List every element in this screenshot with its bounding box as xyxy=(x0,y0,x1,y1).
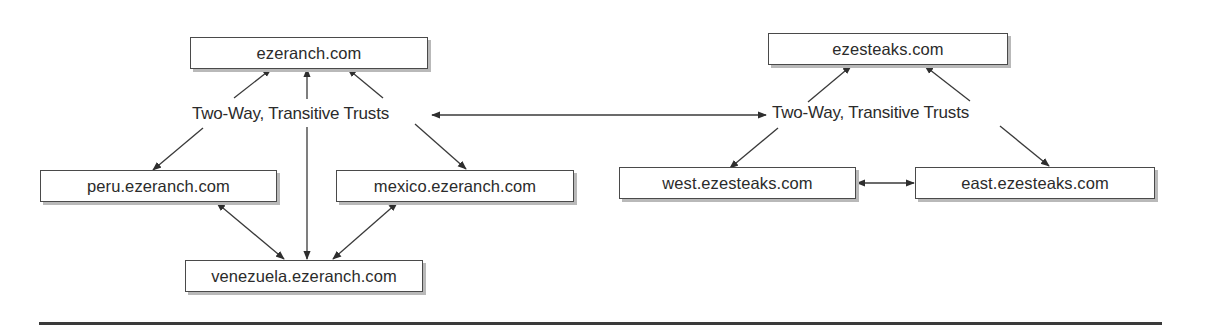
trust-label-left: Two-Way, Transitive Trusts xyxy=(192,104,389,124)
domain-node-venezuela: venezuela.ezeranch.com xyxy=(185,260,423,292)
domain-node-mexico: mexico.ezeranch.com xyxy=(336,170,574,202)
domain-node-ezeranch: ezeranch.com xyxy=(190,37,428,69)
arrow-label-to-ezesteaks-right xyxy=(925,66,970,101)
trust-diagram: ezeranch.com Two-Way, Transitive Trusts … xyxy=(0,0,1208,333)
domain-label: west.ezesteaks.com xyxy=(662,174,812,193)
domain-node-west: west.ezesteaks.com xyxy=(619,167,856,199)
domain-label: peru.ezeranch.com xyxy=(87,177,230,196)
domain-node-east: east.ezesteaks.com xyxy=(915,167,1155,199)
arrow-label-to-mexico xyxy=(415,124,466,169)
arrow-mexico-venezuela xyxy=(333,203,397,259)
domain-label: ezeranch.com xyxy=(257,44,362,63)
domain-label: ezesteaks.com xyxy=(832,40,943,59)
domain-label: venezuela.ezeranch.com xyxy=(211,267,397,286)
arrow-peru-venezuela xyxy=(217,203,284,259)
arrow-label-to-peru xyxy=(153,128,203,170)
arrow-label-to-ezeranch-left xyxy=(234,69,271,98)
domain-node-ezesteaks: ezesteaks.com xyxy=(768,33,1008,65)
arrow-label-to-ezeranch-right xyxy=(348,69,383,98)
arrow-label-to-ezesteaks-left xyxy=(808,66,851,102)
domain-label: east.ezesteaks.com xyxy=(961,174,1109,193)
arrow-label-to-east xyxy=(1000,126,1049,166)
trust-label-right: Two-Way, Transitive Trusts xyxy=(772,103,969,123)
domain-node-peru: peru.ezeranch.com xyxy=(40,170,277,202)
bottom-divider-rule xyxy=(39,322,1162,325)
arrow-label-to-west xyxy=(730,128,778,168)
domain-label: mexico.ezeranch.com xyxy=(374,177,536,196)
